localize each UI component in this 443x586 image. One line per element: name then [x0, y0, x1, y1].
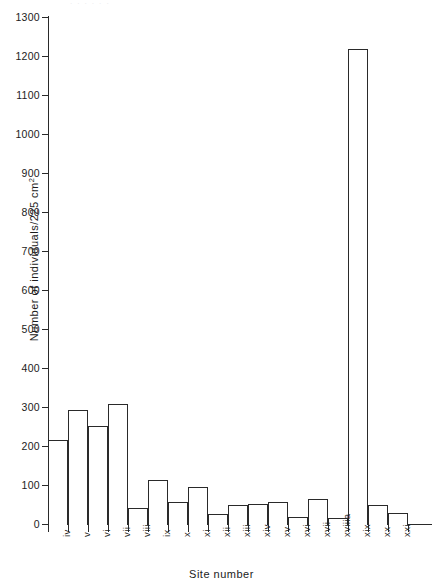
x-axis-title: Site number [0, 568, 443, 580]
x-tick-label-xv: xv [282, 527, 292, 537]
bar-xx [368, 505, 388, 526]
y-tick-label-1000: 1000 [6, 129, 40, 139]
y-tick-label-300: 300 [6, 402, 40, 412]
y-tick-label-1200: 1200 [6, 51, 40, 61]
y-axis-title: Number of individuals/225 cm2 [26, 164, 41, 354]
bar-iv [48, 440, 68, 525]
x-tick-label-xvi: xvi [302, 524, 312, 537]
y-axis-title-superscript: 2 [27, 178, 36, 183]
bar-v [68, 410, 88, 525]
x-tick-label-ix: ix [162, 529, 172, 537]
x-tick-label-xix: xix [362, 524, 372, 537]
x-tick-label-xiv: xiv [262, 524, 272, 537]
bar-chart-figure: 0100200300400500600700800900100011001200… [0, 0, 443, 586]
x-tick-label-xviiia: xviiia [342, 513, 352, 537]
y-tick-label-0: 0 [6, 519, 40, 529]
bar-xi [188, 487, 208, 525]
bar-xix [348, 49, 368, 525]
y-tick-label-200: 200 [6, 441, 40, 451]
x-tick-label-vi: vi [102, 529, 112, 537]
x-tick-iv [48, 525, 49, 532]
bar-ix [148, 480, 168, 525]
x-tick-label-xii: xii [222, 527, 232, 537]
bar-viii [128, 508, 148, 525]
bar-xv [268, 502, 288, 525]
x-tick-label-xiii: xiii [242, 524, 252, 537]
bar-vi [88, 426, 108, 525]
bar-xiii [228, 505, 248, 526]
bar-vii [108, 404, 128, 525]
y-tick-label-400: 400 [6, 363, 40, 373]
x-tick-label-x: x [182, 532, 192, 537]
x-tick-label-vii: vii [122, 527, 132, 537]
x-tick-label-viii: viii [142, 524, 152, 537]
x-tick-label-xi: xi [202, 529, 212, 537]
y-tick-label-1300: 1300 [6, 12, 40, 22]
x-tick-label-xx: xx [382, 527, 392, 537]
bar-x [168, 502, 188, 525]
x-tick-label-xxi: xxi [402, 524, 412, 537]
x-tick-label-xvii: xvii [322, 522, 332, 537]
bar-xiv [248, 504, 268, 525]
bar-xii [208, 514, 228, 525]
plot-area [48, 17, 432, 524]
x-tick-label-iv: iv [62, 529, 72, 537]
y-tick-label-1100: 1100 [6, 90, 40, 100]
y-tick-label-100: 100 [6, 480, 40, 490]
x-tick-label-v: v [82, 532, 92, 537]
